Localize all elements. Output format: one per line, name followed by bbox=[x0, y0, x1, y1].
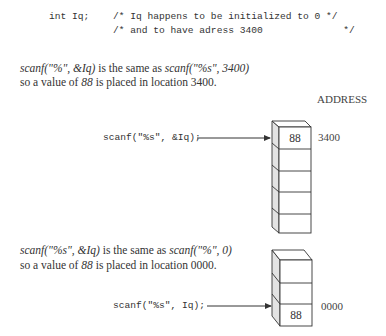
bottom-stack-cell-value: 88 bbox=[290, 309, 302, 321]
top-stack-cell-value: 88 bbox=[289, 132, 301, 144]
memory-diagram: 88 88 bbox=[0, 0, 386, 336]
